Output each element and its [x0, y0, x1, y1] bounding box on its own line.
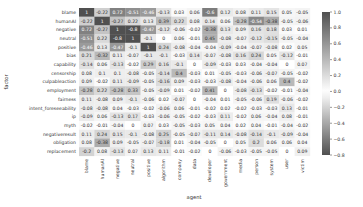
cell-value: 0.04	[297, 140, 307, 145]
cell-value: -0.05	[173, 123, 185, 128]
cell-value: 0.29	[143, 62, 153, 67]
cell-value: 1	[101, 19, 104, 24]
cell-value: 0.16	[159, 62, 169, 67]
cell-value: -0.04	[189, 140, 201, 145]
cell-value: -0.05	[173, 132, 185, 137]
cell-value: 0.14	[189, 53, 199, 58]
cell-value: 0.09	[112, 140, 122, 145]
cell-value: -0.1	[175, 62, 184, 67]
y-tick-label: bias	[67, 53, 77, 58]
cell-value: 0.03	[174, 10, 184, 15]
cell-value: 0.16	[251, 27, 261, 32]
cell-value: -0.16	[158, 79, 170, 84]
y-tick-label: culpableaction	[42, 79, 76, 84]
cell-value: -0.08	[96, 106, 108, 111]
cell-value: 0.11	[220, 114, 230, 119]
cell-value: 0.04	[251, 123, 261, 128]
cell-value: -0.14	[250, 132, 262, 137]
cell-value: 0.07	[297, 62, 307, 67]
cell-value: -0.02	[142, 106, 154, 111]
cell-value: -0.2	[82, 149, 91, 154]
colorbar	[322, 12, 330, 155]
cell-value: 0.11	[112, 79, 122, 84]
cell-value: 0.13	[143, 149, 153, 154]
cell-value: -0.28	[112, 88, 124, 93]
cell-value: 0.05	[282, 10, 292, 15]
cell-value: -0.04	[189, 45, 201, 50]
cell-value: 0.07	[143, 123, 153, 128]
cell-value: -0.12	[281, 53, 293, 58]
cell-value: -0.08	[173, 45, 185, 50]
cell-value: -0.02	[235, 106, 247, 111]
x-tick-label: positive	[146, 159, 151, 177]
cell-value: 0.06	[266, 140, 276, 145]
y-tick-label: replacement	[47, 149, 76, 154]
cell-value: -0.08	[219, 36, 231, 41]
colorbar-tick-label: 0.0	[334, 89, 341, 94]
cell-value: -0.22	[96, 10, 108, 15]
cell-value: -0.04	[296, 88, 308, 93]
cell-value: 0.04	[112, 106, 122, 111]
cell-value: -0.02	[189, 27, 201, 32]
y-tick-label: neutral	[60, 36, 76, 41]
cell-value: -0.02	[127, 62, 139, 67]
cell-value: 1	[85, 10, 88, 15]
cell-value: -0.02	[189, 114, 201, 119]
cell-value: 0	[208, 149, 211, 154]
heatmap-chart: 1-0.220.72-0.51-0.46-0.130.030.06-0.60.1…	[0, 0, 363, 207]
cell-value: 0.06	[220, 19, 230, 24]
colorbar-tick-label: 0.4	[334, 57, 341, 62]
cell-value: -0.07	[204, 53, 216, 58]
cell-value: -0.01	[173, 149, 185, 154]
cell-value: 0.05	[297, 45, 307, 50]
cell-value: -0.06	[142, 97, 154, 102]
x-tick-label: government	[223, 159, 228, 187]
cell-value: -0.05	[142, 79, 154, 84]
x-tick-label: victim	[300, 158, 305, 173]
cell-value: -0.04	[235, 45, 247, 50]
y-tick-label: negative	[56, 27, 76, 32]
cell-value: -0.06	[158, 106, 170, 111]
cell-value: -0.08	[219, 53, 231, 58]
cell-value: 0.22	[174, 19, 184, 24]
cell-value: 0.18	[266, 27, 276, 32]
cell-value: 0.13	[143, 19, 153, 24]
x-tick-label: negative	[115, 159, 120, 179]
cell-value: 0.08	[97, 149, 107, 154]
cell-value: -0.08	[81, 106, 93, 111]
cell-value: -0.06	[281, 97, 293, 102]
cell-value: -0.38	[96, 140, 108, 145]
cell-value: -0.05	[281, 19, 293, 24]
cell-value: 0.13	[282, 106, 292, 111]
x-tick-label: company	[177, 159, 182, 180]
cell-value: 0.02	[159, 97, 169, 102]
cell-value: -0.04	[204, 45, 216, 50]
cell-value: -0.05	[235, 97, 247, 102]
y-tick-label: myth	[64, 123, 76, 128]
cell-value: 0.06	[251, 114, 261, 119]
y-tick-label: ip	[72, 114, 76, 119]
cell-value: -0.04	[112, 123, 124, 128]
cell-value: -0.03	[219, 62, 231, 67]
cell-value: -0.13	[112, 114, 124, 119]
x-tick-label: media	[238, 159, 243, 173]
cell-value: -0.06	[158, 114, 170, 119]
cell-value: -0.54	[250, 19, 262, 24]
cell-value: 0.06	[189, 10, 199, 15]
colorbar-tick-label: 0.8	[334, 25, 341, 30]
cell-value: -0.27	[96, 27, 108, 32]
cell-value: -0.07	[266, 71, 278, 76]
cell-value: 0.06	[174, 106, 184, 111]
cell-value: 1	[116, 27, 119, 32]
x-tick-label: person	[254, 159, 259, 175]
cell-value: 0.09	[82, 79, 92, 84]
cell-value: -0.1	[128, 45, 137, 50]
cell-value: 0.06	[97, 114, 107, 119]
colorbar-tick-label: 1.0	[334, 10, 341, 15]
cell-value: -0.01	[266, 123, 278, 128]
cell-value: 0.11	[112, 53, 122, 58]
colorbar-tick-label: −0.2	[334, 105, 345, 110]
cell-value: -0.11	[204, 132, 216, 137]
y-tick-label: employment	[47, 88, 76, 93]
y-tick-label: obligation	[53, 140, 76, 145]
